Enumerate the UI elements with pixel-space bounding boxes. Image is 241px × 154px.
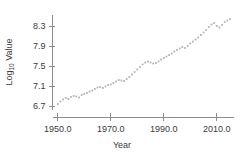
data-point [131,74,133,76]
y-tick-label: 7.9 [33,41,46,51]
y-axis-title-rest: Value [4,38,14,63]
data-point [150,62,152,64]
data-point [221,24,223,26]
data-point [118,79,120,81]
data-point [110,84,112,86]
data-point [57,103,59,105]
data-point [216,25,218,27]
data-point [65,97,67,99]
y-tick-label: 6.7 [33,101,46,111]
x-tick-label: 2010.0 [203,124,231,134]
data-point [89,91,91,93]
data-point [73,95,75,97]
x-axis-title: Year [113,140,131,150]
data-point [70,96,72,98]
data-point [181,46,183,48]
data-point [155,62,157,64]
data-point [126,78,128,80]
data-point [83,93,85,95]
data-point [134,71,136,73]
data-point [147,61,149,63]
data-point [213,22,215,24]
x-axis: 1950.01970.01990.02010.0 [44,113,234,134]
data-point [173,51,175,53]
data-point [128,76,130,78]
data-point [75,96,77,98]
data-point [81,94,83,96]
data-point [142,64,144,66]
x-axis-ticks: 1950.01970.01990.02010.0 [44,113,231,134]
data-series-points [57,18,231,105]
data-point [94,88,96,90]
data-point [187,45,189,47]
data-point [91,90,93,92]
data-point [158,61,160,63]
y-axis: 6.77.17.57.98.3 [33,15,55,111]
data-point [105,86,107,88]
log10-value-vs-year-chart: 6.77.17.57.98.3 1950.01970.01990.02010.0… [0,0,241,154]
data-point [226,20,228,22]
data-point [205,29,207,31]
data-point [224,21,226,23]
data-point [139,66,141,68]
data-point [113,82,115,84]
data-point [195,39,197,41]
y-axis-ticks: 6.77.17.57.98.3 [33,21,55,111]
data-point [99,86,101,88]
data-point [144,62,146,64]
data-point [62,99,64,101]
data-point [176,49,178,51]
data-point [179,48,181,50]
data-point [102,87,104,89]
data-point [208,26,210,28]
data-point [120,80,122,82]
y-axis-title: Log10 Value [4,38,15,85]
data-point [168,54,170,56]
y-tick-label: 7.1 [33,81,46,91]
data-point [86,92,88,94]
data-point [189,43,191,45]
x-tick-label: 1970.0 [97,124,125,134]
data-point [123,80,125,82]
data-point [219,27,221,29]
y-tick-label: 8.3 [33,21,46,31]
data-point [107,84,109,86]
data-point [200,34,202,36]
data-point [171,53,173,55]
data-point [229,18,231,20]
x-tick-label: 1990.0 [150,124,178,134]
data-point [166,56,168,58]
y-axis-title-base: Log [4,71,14,86]
data-point [163,57,165,59]
data-point [68,98,70,100]
y-tick-label: 7.5 [33,61,46,71]
data-point [192,41,194,43]
data-point [60,101,62,103]
data-point [197,37,199,39]
data-point [184,47,186,49]
data-point [203,32,205,34]
data-point [160,59,162,61]
data-point [152,63,154,65]
data-point [211,24,213,26]
data-point [78,97,80,99]
data-point [97,87,99,89]
data-point [115,81,117,83]
x-tick-label: 1950.0 [44,124,72,134]
data-point [136,69,138,71]
chart-canvas: 6.77.17.57.98.3 1950.01970.01990.02010.0… [0,0,241,154]
